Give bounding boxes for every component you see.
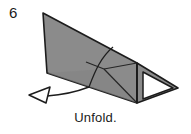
unfold-arrow-shaft (47, 87, 89, 96)
unfold-arrow-head-icon (29, 87, 50, 103)
instruction-caption: Unfold. (0, 110, 191, 125)
origami-diagram-page: 6 Unfold. (0, 0, 191, 134)
